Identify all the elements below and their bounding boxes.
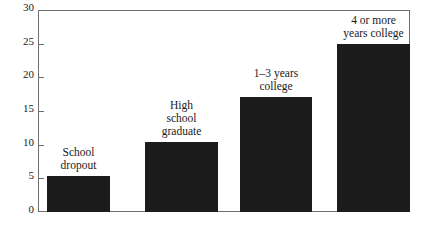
y-tick-mark-0: [38, 212, 44, 213]
y-tick-label-30: 30: [23, 2, 34, 13]
bar-label-high-school-graduate: High school graduate: [131, 99, 232, 138]
bar-chart: 30 25 20 15 10 5 0: [0, 0, 426, 227]
y-tick-label-0: 0: [29, 204, 35, 215]
y-tick-label-15: 15: [23, 103, 34, 114]
y-tick-label-20: 20: [23, 69, 34, 80]
bar-high-school-graduate: [145, 142, 218, 212]
bar-1-3-years-college: [240, 97, 312, 212]
bar-4-or-more-years-college: [337, 44, 410, 212]
bar-label-1-3-years-college: 1–3 years college: [226, 67, 326, 93]
y-tick-0: 0: [0, 212, 46, 213]
y-tick-label-25: 25: [23, 36, 34, 47]
bar-label-school-dropout: School dropout: [33, 146, 124, 172]
bar-label-4-or-more-years-college: 4 or more years college: [323, 14, 424, 40]
bar-school-dropout: [47, 176, 110, 212]
